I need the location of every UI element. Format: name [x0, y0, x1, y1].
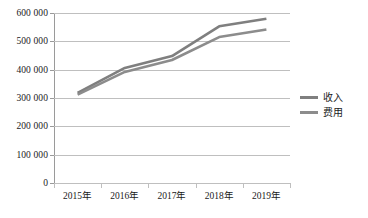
series-line	[78, 29, 267, 94]
y-axis-tick-mark	[50, 98, 54, 99]
legend-label: 费用	[323, 107, 343, 119]
y-axis-tick-mark	[50, 126, 54, 127]
y-axis-tick-mark	[50, 13, 54, 14]
plot-area	[54, 13, 290, 183]
legend-swatch-icon	[300, 111, 318, 114]
y-axis-tick-label: 500 000	[16, 36, 48, 46]
legend-label: 收入	[323, 92, 343, 104]
chart-legend: 收入费用	[300, 90, 366, 120]
x-axis-tick-mark	[101, 183, 102, 188]
x-axis-tick-label: 2019年	[243, 190, 290, 202]
y-axis-tick-label: 300 000	[16, 93, 48, 103]
legend-swatch-icon	[300, 96, 318, 99]
series-layer	[54, 13, 290, 183]
x-axis-tick-mark	[290, 183, 291, 188]
gridline	[54, 183, 290, 184]
x-axis-labels: 2015年2016年2017年2018年2019年	[54, 190, 291, 210]
legend-item[interactable]: 费用	[300, 105, 366, 120]
y-axis-tick-label: 100 000	[16, 150, 48, 160]
y-axis-tick-label: 0	[43, 178, 48, 188]
y-axis-tick-mark	[50, 183, 54, 184]
y-axis-tick-mark	[50, 41, 54, 42]
x-axis-tick-mark	[243, 183, 244, 188]
x-axis-tick-mark	[148, 183, 149, 188]
line-chart: 0100 000200 000300 000400 000500 000600 …	[0, 0, 368, 218]
y-axis-tick-mark	[50, 155, 54, 156]
y-axis-tick-label: 400 000	[16, 65, 48, 75]
y-axis-tick-label: 200 000	[16, 121, 48, 131]
y-axis-labels: 0100 000200 000300 000400 000500 000600 …	[0, 0, 52, 218]
x-axis-tick-label: 2015年	[54, 190, 101, 202]
x-axis-tick-mark	[196, 183, 197, 188]
y-axis-tick-label: 600 000	[16, 8, 48, 18]
x-axis-tick-label: 2018年	[196, 190, 243, 202]
x-axis-tick-label: 2017年	[148, 190, 195, 202]
x-axis-tick-label: 2016年	[101, 190, 148, 202]
legend-item[interactable]: 收入	[300, 90, 366, 105]
x-axis-tick-mark	[54, 183, 55, 188]
y-axis-tick-mark	[50, 70, 54, 71]
